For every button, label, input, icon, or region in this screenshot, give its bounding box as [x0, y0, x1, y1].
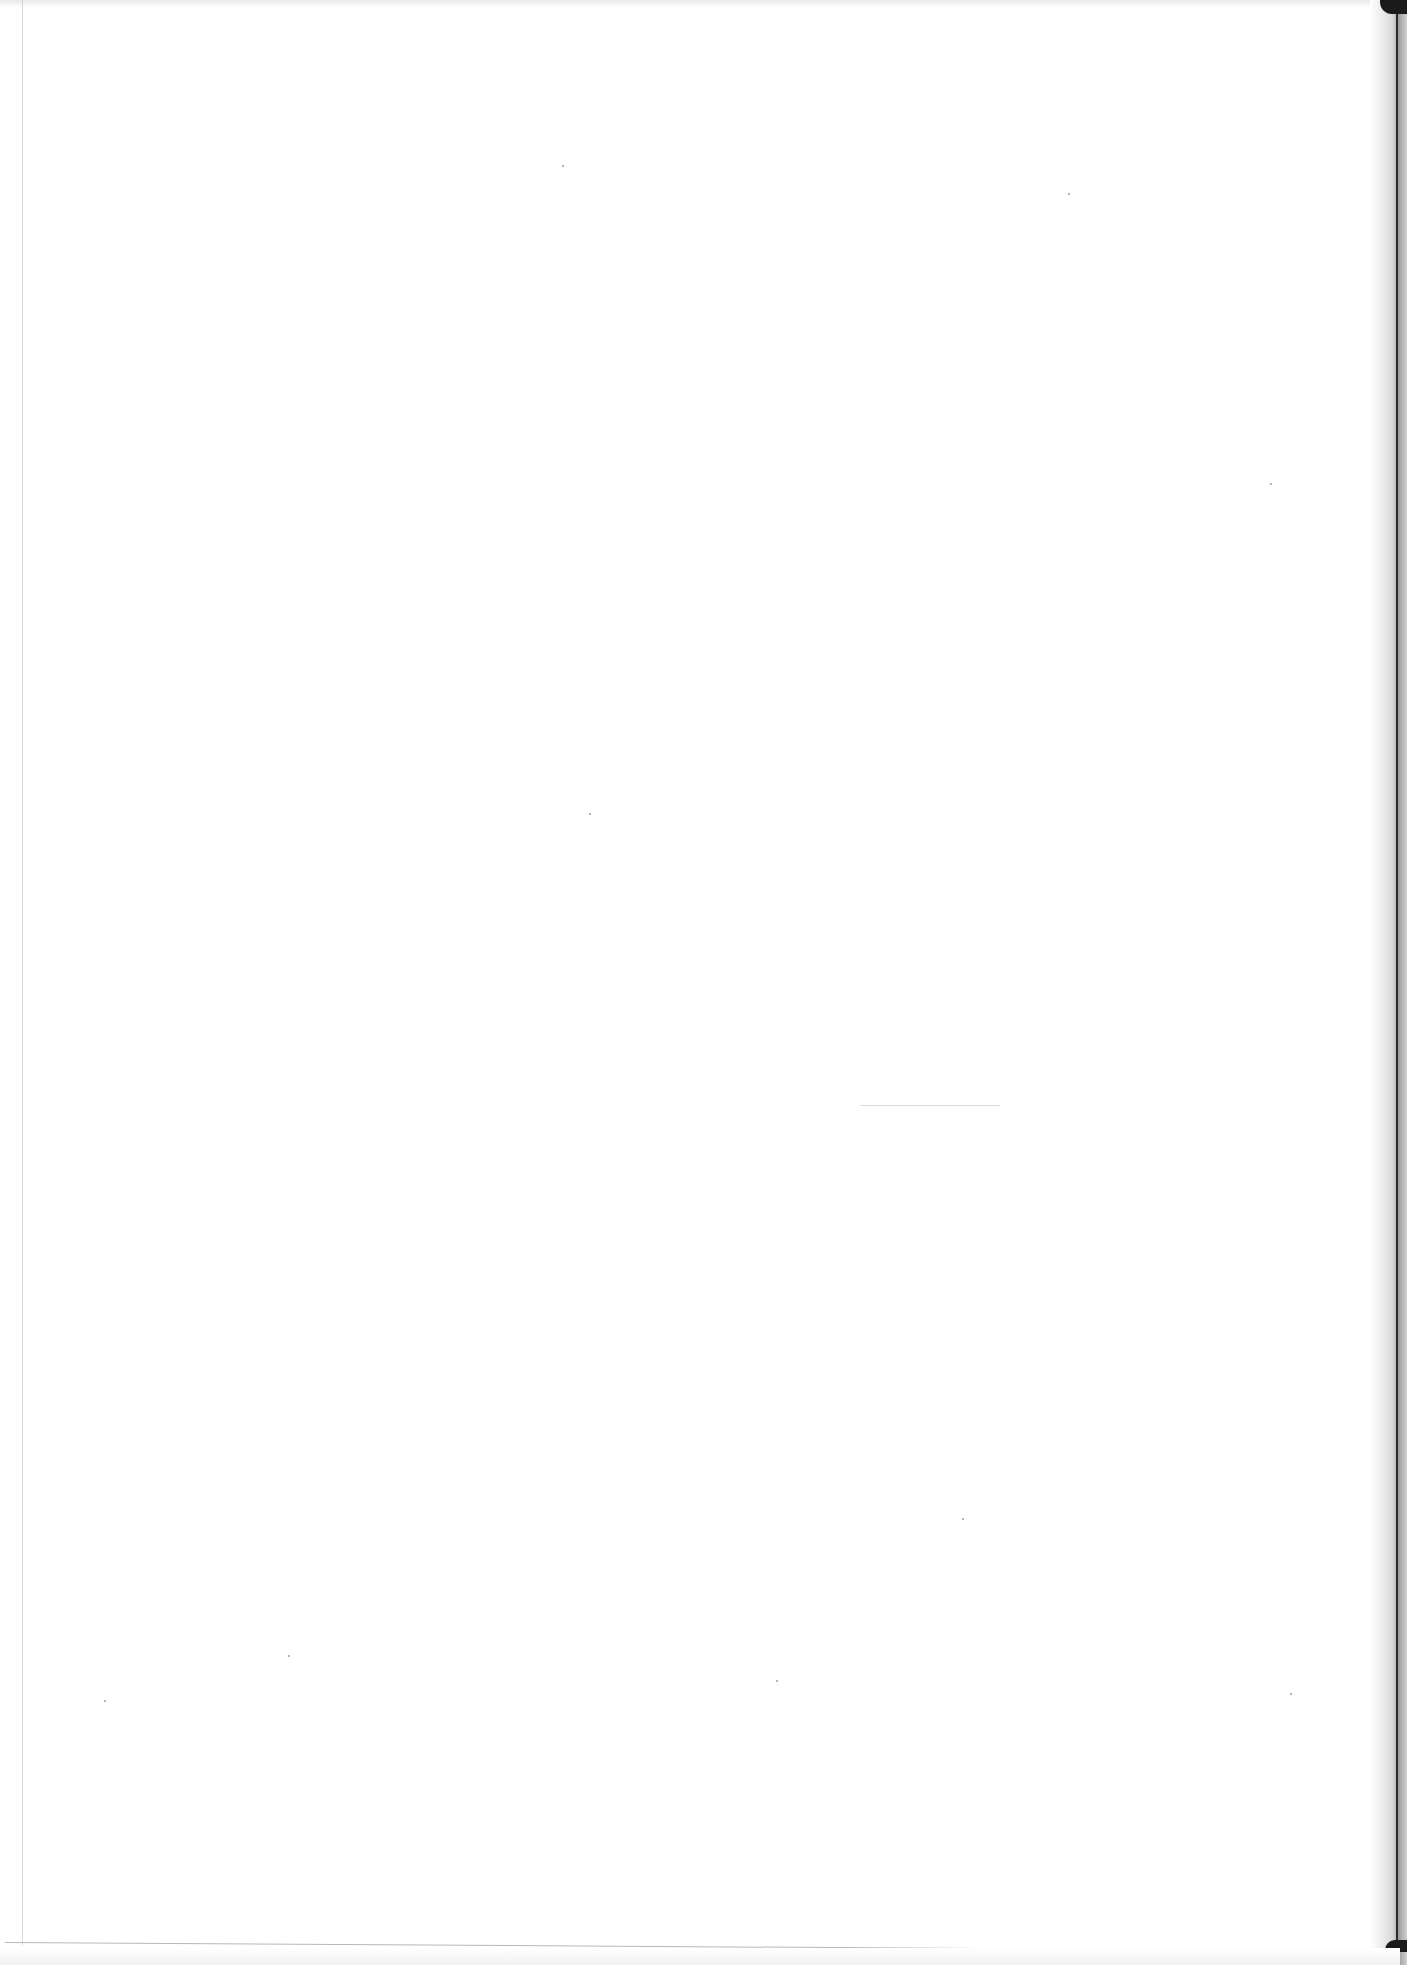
dust-speck [104, 1700, 106, 1702]
scan-binding-shadow [1370, 0, 1396, 1965]
left-margin-line [22, 0, 23, 1945]
dust-speck [962, 1518, 964, 1520]
dust-speck [1068, 193, 1070, 195]
dust-speck [1290, 1693, 1292, 1695]
dust-speck [562, 165, 564, 167]
dust-speck [288, 1655, 290, 1657]
scan-bottom-strip [0, 1948, 1400, 1965]
dust-speck [589, 813, 591, 815]
scanner-bed-margin [1398, 0, 1407, 1965]
bleed-through-mark [860, 1105, 1000, 1106]
dust-speck [1270, 483, 1272, 485]
scanned-blank-page [0, 0, 1407, 1965]
dust-speck [776, 1680, 778, 1682]
scan-top-strip [0, 0, 1395, 8]
